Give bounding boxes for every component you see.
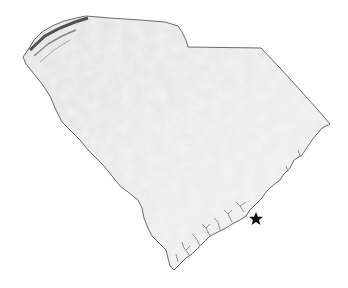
state-map [0, 0, 348, 288]
star-icon [249, 212, 263, 225]
state-shape [0, 0, 348, 288]
relief-texture [0, 0, 348, 288]
